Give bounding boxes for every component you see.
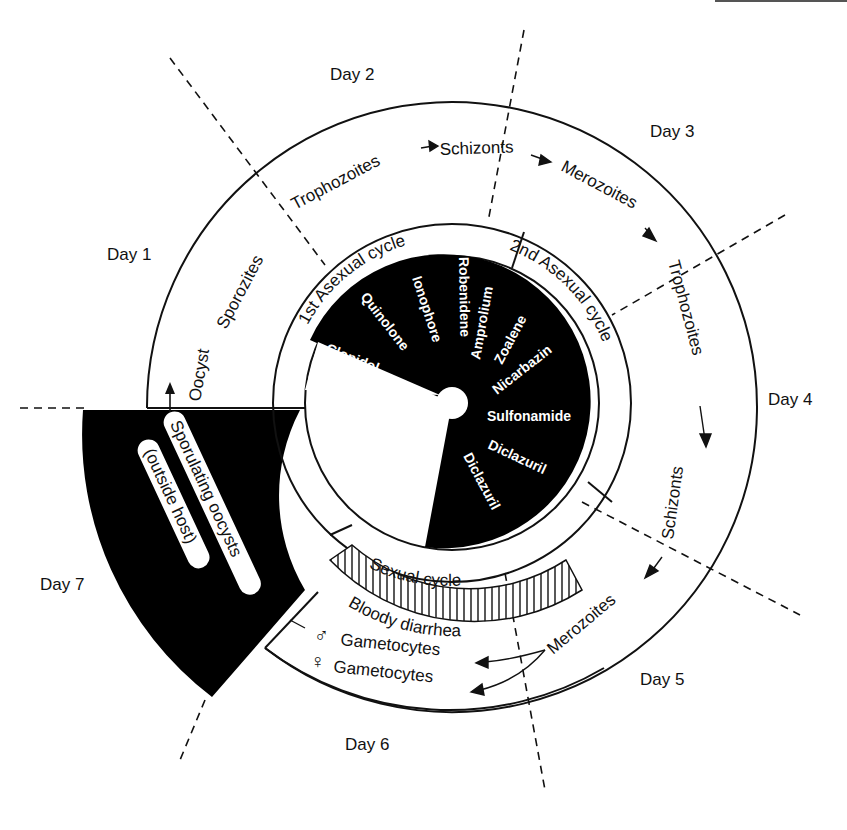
day-4-label: Day 4 — [768, 390, 812, 409]
day-3-label: Day 3 — [650, 122, 694, 141]
drug-sulfonamide: Sulfonamide — [487, 408, 571, 424]
day-6-label: Day 6 — [345, 735, 389, 754]
drug-robenidene: Robenidene — [456, 257, 473, 338]
stage-oocyst: Oocyst — [185, 347, 213, 403]
stage-trophozoites-2: Trophozoites — [664, 258, 708, 357]
stage-merozoites-1: Merozoites — [558, 157, 640, 213]
day-1-label: Day 1 — [107, 245, 151, 264]
stage-sporozites: Sporozites — [213, 252, 267, 332]
male-symbol-icon: ♂ — [314, 624, 329, 646]
stage-schizonts-2: Schizonts — [658, 465, 687, 541]
coccidia-life-cycle-diagram: Day 1 Day 2 Day 3 Day 4 Day 5 Day 6 Day … — [0, 0, 847, 830]
female-symbol-icon: ♀ — [310, 650, 325, 672]
stage-schizonts-1: Schizonts — [439, 137, 513, 159]
day-7-label: Day 7 — [40, 575, 84, 594]
stage-female-gametocytes: Gametocytes — [333, 657, 435, 686]
day-5-label: Day 5 — [640, 670, 684, 689]
day-2-label: Day 2 — [330, 65, 374, 84]
center-hub — [436, 387, 468, 419]
stage-trophozoites-1: Trophozoites — [288, 151, 383, 214]
